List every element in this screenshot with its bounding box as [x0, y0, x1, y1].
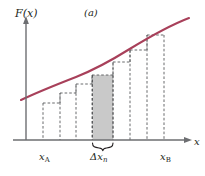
width-subscript: n	[103, 156, 108, 164]
width-base: Δx	[90, 151, 103, 162]
y-axis-label: F(x)	[15, 8, 37, 19]
right-bound-subscript: B	[166, 156, 171, 164]
width-brace	[93, 143, 114, 151]
figure-canvas	[0, 0, 205, 176]
panel-label: (a)	[84, 8, 98, 18]
shaded-rectangle	[93, 75, 114, 140]
riemann-sum-figure: F(x) (a) x xA Δxn xB	[0, 0, 205, 176]
x-axis-arrowhead	[184, 137, 192, 143]
x-axis-label: x	[194, 137, 200, 147]
left-bound-label: xA	[39, 152, 50, 164]
width-label: Δxn	[90, 152, 107, 164]
right-bound-label: xB	[160, 152, 171, 164]
left-bound-subscript: A	[45, 156, 50, 164]
